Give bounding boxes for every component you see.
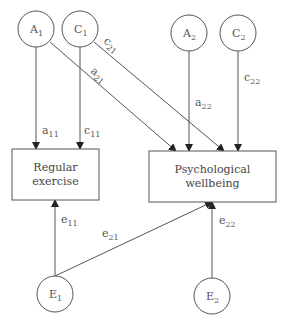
node-a1: A1 <box>18 11 54 47</box>
svg-text:Regular: Regular <box>33 161 78 174</box>
label-c11: c11 <box>84 124 100 139</box>
node-c2: C2 <box>220 15 256 51</box>
label-a22: a22 <box>195 96 212 111</box>
node-psychological-wellbeing: Psychological wellbeing <box>149 151 276 202</box>
node-e2: E2 <box>194 278 230 314</box>
node-e1: E1 <box>37 276 73 312</box>
label-e21: e21 <box>102 227 119 242</box>
label-e11: e11 <box>61 213 78 228</box>
svg-text:exercise: exercise <box>32 175 78 188</box>
node-c1: C1 <box>62 11 98 47</box>
label-c22: c22 <box>244 71 260 86</box>
svg-text:wellbeing: wellbeing <box>185 177 239 190</box>
node-a2: A2 <box>171 15 207 51</box>
node-regular-exercise: Regular exercise <box>12 149 99 200</box>
label-e22: e22 <box>219 214 236 229</box>
edge-e21 <box>55 202 212 276</box>
label-c21: c21 <box>100 34 122 56</box>
label-a21: a21 <box>87 64 109 86</box>
label-a11: a11 <box>42 124 59 139</box>
svg-text:Psychological: Psychological <box>175 163 251 176</box>
path-diagram: A1 C1 A2 C2 E1 E2 Regular exercise Psych… <box>0 0 287 329</box>
